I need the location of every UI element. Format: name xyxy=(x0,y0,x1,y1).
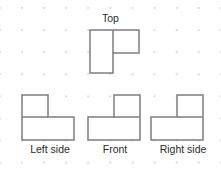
figure-canvas: Top Left side Front Right side xyxy=(0,0,221,173)
top-view-outline xyxy=(90,30,139,73)
front-view-shape xyxy=(88,95,140,140)
right-side-view-shape xyxy=(151,95,203,140)
left-side-view-shape xyxy=(22,95,74,140)
left-side-view-label: Left side xyxy=(6,143,94,155)
top-view-label: Top xyxy=(0,12,221,24)
right-side-view-label: Right side xyxy=(146,143,220,155)
top-view-shape xyxy=(90,30,139,73)
front-view-label: Front xyxy=(84,143,146,155)
